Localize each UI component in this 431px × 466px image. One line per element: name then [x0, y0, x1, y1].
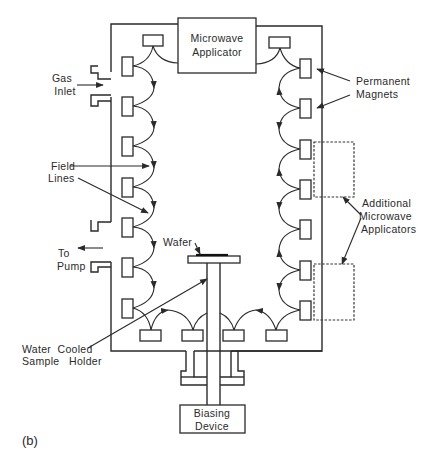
permanent-magnets-label-2: Magnets — [356, 88, 398, 100]
field-lines-label-2: Lines — [48, 172, 75, 184]
callout-arrows — [70, 69, 361, 348]
bottom-magnets — [140, 330, 287, 341]
bottom-flange — [181, 351, 322, 385]
panel-label: (b) — [22, 433, 38, 448]
ecr-reactor-diagram: Microwave Applicator — [0, 0, 431, 466]
permanent-magnets-label-1: Permanent — [356, 75, 410, 87]
biasing-device-label-1: Biasing — [194, 407, 231, 419]
biasing-device-label-2: Device — [195, 420, 229, 432]
to-pump-label-1: To — [58, 247, 70, 259]
additional-microwave-applicators — [314, 142, 354, 320]
additional-applicators-label-3: Applicators — [361, 223, 416, 235]
gas-inlet-label-2: Inlet — [54, 85, 75, 97]
microwave-applicator: Microwave Applicator — [178, 18, 256, 73]
field-lines-label-1: Field — [51, 160, 75, 172]
gas-inlet-label-1: Gas — [52, 72, 72, 84]
sample-holder-label-2: Sample Holder — [22, 355, 102, 367]
microwave-applicator-label-2: Applicator — [192, 46, 242, 58]
wafer-label: Wafer — [163, 236, 192, 248]
biasing-device: Biasing Device — [180, 405, 245, 433]
sample-holder-label-1: Water Cooled — [22, 343, 93, 355]
field-lines — [133, 46, 300, 330]
right-magnets — [300, 59, 311, 320]
left-magnets — [122, 57, 133, 318]
gas-inlet-port — [91, 66, 111, 106]
to-pump-label-2: Pump — [57, 260, 86, 272]
additional-applicators-label-1: Additional — [362, 197, 411, 209]
additional-applicators-label-2: Microwave — [359, 210, 412, 222]
pump-port — [91, 220, 111, 272]
microwave-applicator-label-1: Microwave — [191, 32, 244, 44]
